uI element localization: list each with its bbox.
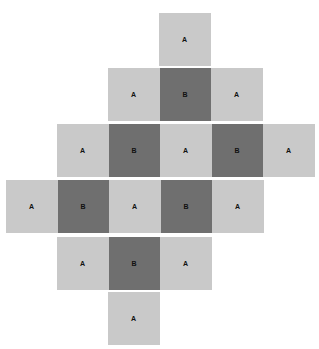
tile-cell: B [109, 237, 161, 290]
tile-cell-label: B [132, 260, 137, 267]
tile-cell: B [58, 180, 110, 233]
tile-cell: A [109, 180, 161, 233]
tile-cell: A [159, 13, 211, 66]
tile-cell-label: A [183, 147, 188, 154]
tile-cell-label: A [182, 36, 187, 43]
tile-cell: A [6, 180, 58, 233]
tile-cell: A [211, 68, 263, 121]
tile-cell: A [108, 68, 160, 121]
tile-cell: B [109, 124, 161, 177]
tile-cell-label: A [80, 260, 85, 267]
tile-cell-label: A [80, 147, 85, 154]
tile-cell-label: B [184, 203, 189, 210]
tile-cell-label: B [132, 147, 137, 154]
tile-cell-label: B [81, 203, 86, 210]
tile-cell-label: A [131, 91, 136, 98]
tile-cell-label: A [29, 203, 34, 210]
tile-cell: A [160, 124, 212, 177]
tile-cell: A [108, 292, 160, 345]
tile-cell-label: A [286, 147, 291, 154]
tile-cell: A [57, 124, 109, 177]
tile-cell-label: B [235, 147, 240, 154]
tile-cell: B [161, 180, 213, 233]
tile-cell: A [263, 124, 315, 177]
tile-cell-label: A [234, 91, 239, 98]
tile-cell-label: A [183, 260, 188, 267]
tile-cell: B [212, 124, 264, 177]
tile-cell-label: B [183, 91, 188, 98]
tile-cell: B [160, 68, 212, 121]
tile-cell-label: A [131, 315, 136, 322]
tile-cell-label: A [132, 203, 137, 210]
tile-cell-label: A [235, 203, 240, 210]
tile-cell: A [57, 237, 109, 290]
tile-cell: A [160, 237, 212, 290]
tile-diagram: AABAABABAABABAABAA [0, 0, 319, 349]
tile-cell: A [212, 180, 264, 233]
